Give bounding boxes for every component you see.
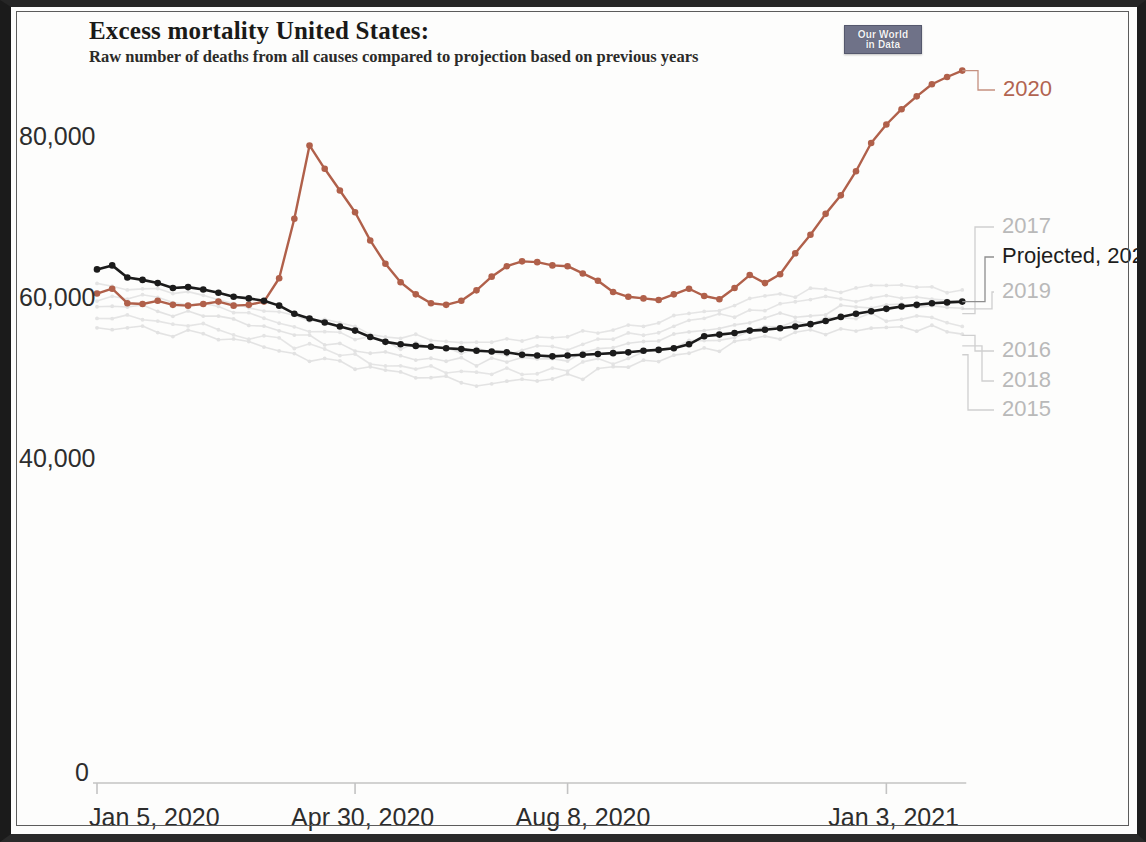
data-point[interactable]	[488, 273, 495, 280]
data-point[interactable]	[549, 262, 556, 269]
legend-label-2015[interactable]: 2015	[1002, 396, 1051, 422]
data-point[interactable]	[139, 277, 146, 284]
legend-label-2016[interactable]: 2016	[1002, 337, 1051, 363]
data-point[interactable]	[504, 349, 511, 356]
data-point[interactable]	[352, 209, 359, 216]
data-point[interactable]	[458, 298, 465, 305]
data-point[interactable]	[124, 300, 131, 307]
data-point[interactable]	[337, 323, 344, 330]
data-point[interactable]	[671, 291, 678, 298]
data-point[interactable]	[154, 298, 161, 305]
data-point[interactable]	[716, 296, 723, 303]
data-point[interactable]	[883, 121, 890, 128]
data-point[interactable]	[731, 330, 738, 337]
data-point[interactable]	[579, 351, 586, 358]
data-point[interactable]	[246, 295, 253, 302]
data-point[interactable]	[170, 302, 177, 309]
data-point[interactable]	[853, 168, 860, 175]
data-point[interactable]	[230, 302, 237, 309]
data-point[interactable]	[109, 262, 116, 269]
data-point[interactable]	[822, 318, 829, 325]
data-point[interactable]	[929, 300, 936, 307]
data-point[interactable]	[853, 310, 860, 317]
data-point[interactable]	[397, 341, 404, 348]
data-point[interactable]	[777, 325, 784, 332]
data-point[interactable]	[321, 319, 328, 326]
data-point[interactable]	[807, 321, 814, 328]
data-point[interactable]	[139, 301, 146, 308]
data-point[interactable]	[519, 351, 526, 358]
data-point[interactable]	[94, 266, 101, 273]
data-point[interactable]	[944, 74, 951, 81]
legend-label-2017[interactable]: 2017	[1002, 213, 1051, 239]
data-point[interactable]	[230, 293, 237, 300]
data-point[interactable]	[215, 289, 222, 296]
data-point[interactable]	[276, 275, 283, 282]
legend-label-projected-2020[interactable]: Projected, 2020	[1002, 243, 1137, 269]
data-point[interactable]	[337, 187, 344, 194]
data-point[interactable]	[868, 308, 875, 315]
data-point[interactable]	[397, 279, 404, 286]
data-point[interactable]	[382, 260, 389, 267]
data-point[interactable]	[838, 314, 845, 321]
data-point[interactable]	[428, 300, 435, 307]
data-point[interactable]	[473, 287, 480, 294]
data-point[interactable]	[321, 165, 328, 172]
data-point[interactable]	[655, 297, 662, 304]
data-point[interactable]	[625, 349, 632, 356]
data-point[interactable]	[534, 259, 541, 266]
data-point[interactable]	[686, 341, 693, 348]
data-point[interactable]	[822, 211, 829, 218]
data-point[interactable]	[564, 352, 571, 359]
data-point[interactable]	[792, 250, 799, 257]
data-point[interactable]	[504, 263, 511, 270]
data-point[interactable]	[412, 343, 419, 350]
data-point[interactable]	[746, 327, 753, 334]
data-point[interactable]	[458, 346, 465, 353]
data-point[interactable]	[185, 284, 192, 291]
data-point[interactable]	[731, 285, 738, 292]
data-point[interactable]	[443, 345, 450, 352]
data-point[interactable]	[261, 298, 268, 305]
data-point[interactable]	[762, 326, 769, 333]
data-point[interactable]	[306, 142, 313, 149]
data-point[interactable]	[200, 301, 207, 308]
data-point[interactable]	[412, 291, 419, 298]
data-point[interactable]	[625, 293, 632, 300]
data-point[interactable]	[777, 271, 784, 278]
data-point[interactable]	[701, 333, 708, 340]
data-point[interactable]	[519, 258, 526, 265]
data-point[interactable]	[913, 93, 920, 100]
data-point[interactable]	[352, 327, 359, 334]
data-point[interactable]	[762, 280, 769, 287]
data-point[interactable]	[154, 280, 161, 287]
data-point[interactable]	[868, 140, 875, 147]
data-point[interactable]	[382, 339, 389, 346]
data-point[interactable]	[716, 331, 723, 338]
data-point[interactable]	[124, 274, 131, 281]
data-point[interactable]	[640, 295, 647, 302]
data-point[interactable]	[488, 348, 495, 355]
data-point[interactable]	[367, 334, 374, 341]
data-point[interactable]	[443, 302, 450, 309]
data-point[interactable]	[549, 353, 556, 360]
data-point[interactable]	[655, 347, 662, 354]
legend-label-2018[interactable]: 2018	[1002, 367, 1051, 393]
data-point[interactable]	[898, 106, 905, 113]
data-point[interactable]	[792, 323, 799, 330]
data-point[interactable]	[200, 286, 207, 293]
data-point[interactable]	[595, 351, 602, 358]
data-point[interactable]	[564, 263, 571, 270]
data-point[interactable]	[883, 306, 890, 313]
data-point[interactable]	[807, 231, 814, 238]
data-point[interactable]	[671, 345, 678, 352]
data-point[interactable]	[185, 302, 192, 309]
data-point[interactable]	[929, 81, 936, 88]
data-point[interactable]	[686, 285, 693, 292]
data-point[interactable]	[701, 293, 708, 300]
data-point[interactable]	[746, 272, 753, 279]
data-point[interactable]	[306, 315, 313, 322]
data-point[interactable]	[640, 347, 647, 354]
data-point[interactable]	[428, 343, 435, 350]
data-point[interactable]	[276, 302, 283, 309]
